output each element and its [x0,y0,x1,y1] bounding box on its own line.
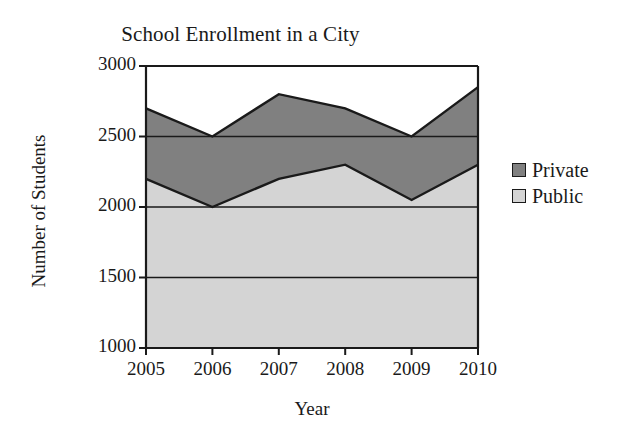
x-tick-label: 2010 [445,358,511,380]
chart-container: School Enrollment in a City Number of St… [0,0,631,440]
x-tick-label: 2007 [246,358,312,380]
x-tick-label: 2005 [113,358,179,380]
legend-swatch-icon [512,189,526,203]
legend-swatch-icon [512,163,526,177]
x-tick-label: 2006 [179,358,245,380]
x-axis-title: Year [146,398,478,420]
legend-label: Public [532,186,583,206]
legend-label: Private [532,160,589,180]
legend-item[interactable]: Public [512,186,589,206]
x-tick-label: 2008 [312,358,378,380]
legend-item[interactable]: Private [512,160,589,180]
x-tick-label: 2009 [379,358,445,380]
x-axis-tick-labels: 200520062007200820092010 [0,0,631,440]
chart-legend: PrivatePublic [512,160,589,206]
